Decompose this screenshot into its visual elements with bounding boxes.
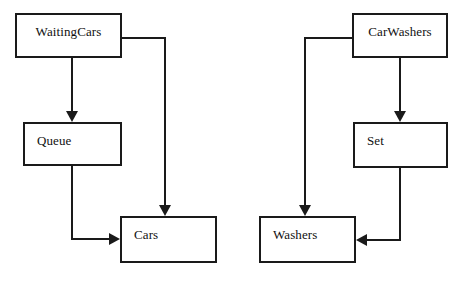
arrowhead-carwashers-to-washers [299, 205, 311, 216]
arrowhead-queue-to-cars [109, 233, 120, 245]
node-cars[interactable]: Cars [120, 216, 217, 263]
node-waitingcars[interactable]: WaitingCars [15, 13, 122, 58]
arrowhead-set-to-washers [356, 234, 367, 246]
arrowhead-waitingcars-to-cars [159, 205, 171, 216]
edge-line-queue-to-cars [72, 166, 114, 239]
node-label-cars: Cars [134, 227, 158, 242]
node-label-set: Set [367, 133, 384, 148]
node-label-waitingcars: WaitingCars [17, 24, 120, 39]
arrowhead-carwashers-to-set [394, 111, 406, 122]
arrowhead-waitingcars-to-queue [66, 111, 78, 122]
diagram-canvas: WaitingCars Queue Cars CarWashers Set Wa… [0, 0, 472, 287]
node-label-washers: Washers [273, 227, 317, 242]
node-label-queue: Queue [37, 133, 71, 148]
node-queue[interactable]: Queue [23, 122, 122, 166]
node-washers[interactable]: Washers [259, 216, 356, 263]
node-label-carwashers: CarWashers [354, 24, 446, 39]
node-set[interactable]: Set [353, 122, 448, 168]
edge-line-carwashers-to-washers [305, 38, 352, 212]
edge-line-waitingcars-to-cars [122, 38, 165, 212]
edge-line-set-to-washers [362, 168, 400, 240]
node-carwashers[interactable]: CarWashers [352, 13, 448, 58]
